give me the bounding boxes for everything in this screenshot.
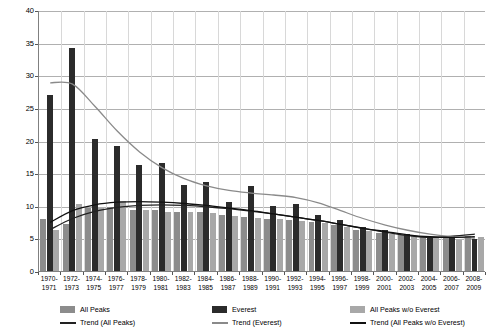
- legend-label: All Peaks w/o Everest: [370, 303, 440, 316]
- y-axis-tick-label: 35: [4, 40, 34, 47]
- legend-entry[interactable]: Everest: [212, 303, 372, 316]
- y-axis-tick-label: 30: [4, 72, 34, 79]
- x-axis-labels: 1970-19711972-19731974-19751976-19771978…: [38, 275, 485, 301]
- y-axis-tick-label: 10: [4, 203, 34, 210]
- y-axis-tick-mark: [35, 207, 38, 208]
- chart-legend: All PeaksTrend (All Peaks)EverestTrend (…: [0, 303, 492, 331]
- y-axis-tick-mark: [35, 11, 38, 12]
- trend-line: [50, 82, 475, 238]
- legend-line-icon: [350, 322, 366, 324]
- legend-entry[interactable]: Trend (Everest): [212, 316, 372, 329]
- x-axis-label-line: 2008-: [457, 275, 491, 284]
- y-axis-tick-mark: [35, 239, 38, 240]
- legend-label: Trend (All Peaks): [80, 316, 135, 329]
- x-axis-label: 2008-2009: [457, 275, 491, 292]
- y-axis-tick-mark: [35, 142, 38, 143]
- y-axis-tick-mark: [35, 76, 38, 77]
- legend-swatch-icon: [350, 306, 365, 313]
- trend-line-layer: [39, 11, 486, 272]
- trend-line: [50, 202, 475, 238]
- y-axis-tick-label: 15: [4, 170, 34, 177]
- legend-label: Trend (Everest): [232, 316, 282, 329]
- plot-area: [38, 11, 485, 272]
- x-axis-label-line: 2009: [457, 284, 491, 293]
- y-axis-tick-mark: [35, 109, 38, 110]
- legend-column: All PeaksTrend (All Peaks): [60, 303, 220, 329]
- y-axis-tick-label: 25: [4, 105, 34, 112]
- y-axis-tick-label: 0: [4, 268, 34, 275]
- legend-entry[interactable]: All Peaks w/o Everest: [350, 303, 492, 316]
- legend-label: All Peaks: [80, 303, 110, 316]
- legend-line-icon: [60, 322, 76, 324]
- y-axis-tick-label: 20: [4, 138, 34, 145]
- legend-column: All Peaks w/o EverestTrend (All Peaks w/…: [350, 303, 492, 329]
- legend-swatch-icon: [212, 306, 227, 313]
- legend-line-icon: [212, 322, 228, 324]
- chart-root: 0510152025303540 1970-19711972-19731974-…: [0, 0, 492, 331]
- y-axis-tick-mark: [35, 44, 38, 45]
- legend-entry[interactable]: Trend (All Peaks w/o Everest): [350, 316, 492, 329]
- legend-swatch-icon: [60, 306, 75, 313]
- y-axis-tick-label: 40: [4, 7, 34, 14]
- legend-entry[interactable]: Trend (All Peaks): [60, 316, 220, 329]
- legend-column: EverestTrend (Everest): [212, 303, 372, 329]
- legend-label: Everest: [232, 303, 256, 316]
- legend-entry[interactable]: All Peaks: [60, 303, 220, 316]
- trend-line: [50, 205, 475, 238]
- legend-label: Trend (All Peaks w/o Everest): [370, 316, 465, 329]
- y-axis-tick-mark: [35, 174, 38, 175]
- y-axis-tick-label: 5: [4, 235, 34, 242]
